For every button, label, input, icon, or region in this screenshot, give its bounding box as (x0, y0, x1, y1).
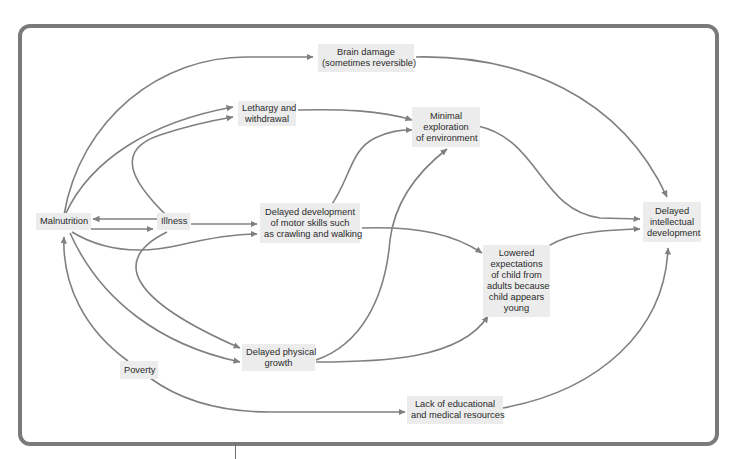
edge-exploration-intellectual (478, 126, 640, 219)
node-lack-resources: Lack of educational and medical resource… (407, 396, 503, 424)
node-malnutrition: Malnutrition (36, 213, 91, 230)
edge-malnutrition-brain-damage (64, 57, 313, 215)
edge-motor-exploration (330, 130, 412, 207)
edge-malnutrition-motor (72, 232, 257, 250)
node-lowered-expectations: Lowered expectations of child from adult… (483, 245, 550, 317)
edge-lethargy-exploration (298, 110, 412, 120)
node-illness: Illness (157, 213, 190, 230)
node-lethargy: Lethargy and withdrawal (238, 101, 296, 126)
edge-malnutrition-lethargy (65, 107, 233, 215)
edge-poverty-resources (150, 378, 405, 412)
edge-malnutrition-physical (70, 233, 240, 362)
edge-physical-expectations (316, 316, 488, 362)
node-delayed-motor: Delayed development of motor skills such… (260, 203, 360, 243)
node-delayed-physical: Delayed physical growth (242, 344, 315, 371)
edge-motor-expectations (362, 228, 482, 253)
edge-poverty-malnutrition (64, 237, 128, 361)
node-brain-damage: Brain damage (sometimes reversible) (318, 44, 414, 72)
node-delayed-intellectual: Delayed intellectual development (643, 202, 701, 242)
node-minimal-exploration: Minimal exploration of environment (412, 107, 480, 147)
edge-expectations-intellectual (540, 229, 640, 252)
node-poverty: Poverty (120, 361, 158, 379)
edge-physical-exploration (316, 149, 447, 360)
edge-illness-lethargy (132, 117, 233, 216)
